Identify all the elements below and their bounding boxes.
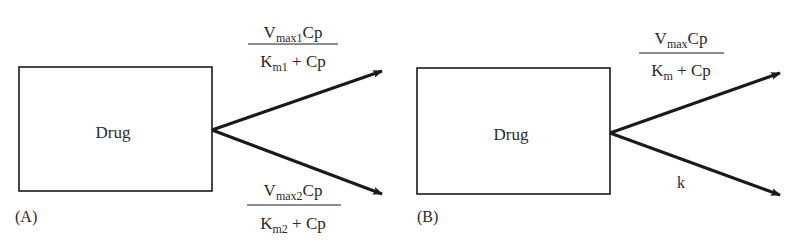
fraction-denominator: Km2 + Cp	[260, 214, 326, 236]
lower-elimination-arrow	[212, 130, 382, 194]
fraction-numerator: VmaxCp	[655, 29, 708, 51]
upper-rate-fraction: Vmax1Cp Km1 + Cp	[248, 23, 338, 74]
first-order-rate-constant: k	[677, 174, 685, 191]
upper-elimination-arrow	[610, 73, 780, 133]
fraction-denominator: Km1 + Cp	[260, 52, 326, 74]
upper-elimination-arrow	[212, 71, 382, 130]
panel-label: (A)	[15, 208, 37, 226]
panel-a: Drug Vmax1Cp Km1 + Cp Vmax2Cp Km2 + Cp (…	[15, 23, 382, 236]
panel-b: Drug VmaxCp Km + Cp k (B)	[417, 29, 780, 226]
lower-rate-fraction: Vmax2Cp Km2 + Cp	[247, 181, 341, 236]
elimination-diagram: Drug Vmax1Cp Km1 + Cp Vmax2Cp Km2 + Cp (…	[0, 0, 794, 250]
upper-rate-fraction: VmaxCp Km + Cp	[639, 29, 724, 83]
fraction-denominator: Km + Cp	[651, 61, 711, 83]
compartment-label: Drug	[96, 123, 131, 142]
panel-label: (B)	[417, 208, 438, 226]
fraction-numerator: Vmax1Cp	[264, 23, 323, 45]
compartment-label: Drug	[494, 125, 529, 144]
fraction-numerator: Vmax2Cp	[264, 181, 323, 203]
lower-elimination-arrow	[610, 133, 780, 195]
